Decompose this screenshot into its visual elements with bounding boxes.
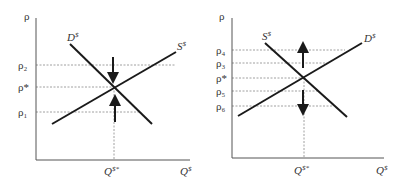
- demand-label: D$: [66, 31, 79, 43]
- price-label-p2: ρ₂: [18, 59, 27, 71]
- demand-label: D$: [363, 32, 376, 44]
- y-axis-label: ρ: [24, 10, 30, 22]
- x-axis-label: Q$: [180, 165, 192, 177]
- left-diagram: ρ ρ₂ ρ* ρ₁ D$ S$ Q$* Q$: [18, 10, 192, 177]
- right-diagram: ρ ρ₄ ρ₃ ρ* ρ₅ ρ₆ S$ D$ Q$* Q$: [216, 10, 388, 176]
- supply-label: S$: [177, 40, 187, 52]
- price-label-p5: ρ₅: [216, 85, 225, 97]
- price-label-p6: ρ₆: [216, 100, 225, 112]
- demand-curve: [238, 43, 362, 116]
- price-label-p4: ρ₄: [216, 44, 225, 56]
- price-label-p3: ρ₃: [216, 57, 225, 69]
- equilibrium-q-label: Q$*: [104, 165, 119, 177]
- equilibrium-q-label: Q$*: [294, 164, 309, 176]
- price-label-p1: ρ₁: [18, 106, 27, 118]
- x-axis-label: Q$: [376, 164, 388, 176]
- diagram-canvas: ρ ρ₂ ρ* ρ₁ D$ S$ Q$* Q$ ρ ρ₄ ρ₃ ρ* ρ₅ ρ₆…: [0, 0, 406, 185]
- supply-label: S$: [262, 30, 272, 42]
- price-label-pstar: ρ*: [18, 81, 29, 93]
- price-label-pstar: ρ*: [216, 72, 227, 84]
- guide-lines: [232, 50, 345, 158]
- y-axis-label: ρ: [219, 10, 225, 22]
